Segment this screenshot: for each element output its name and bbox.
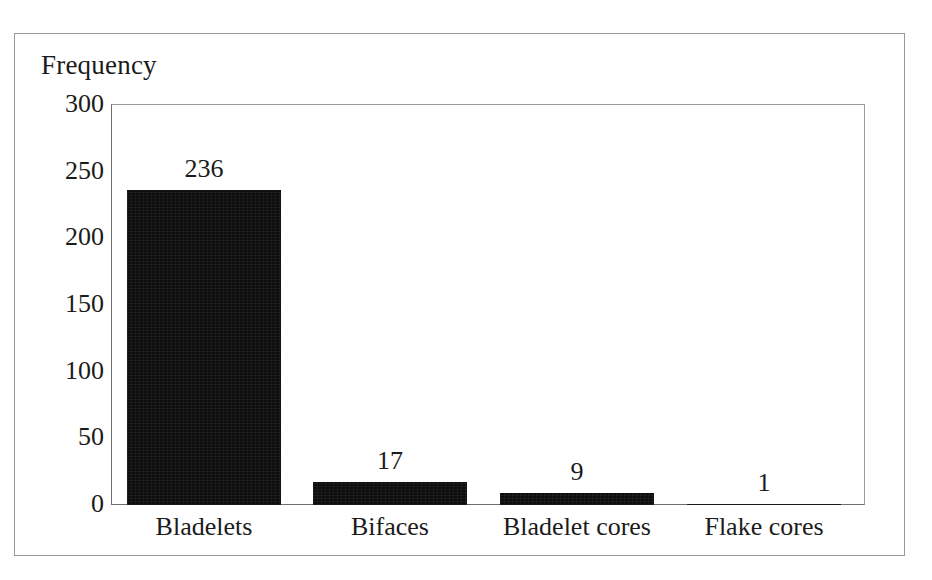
bar-bladelet-cores [500,493,654,505]
bar-value-bladelets: 236 [127,156,281,182]
x-tick-label-bifaces: Bifaces [303,512,477,542]
y-axis-tick-labels: 300 250 200 150 100 50 0 [30,0,104,580]
x-tick-label-bladelets: Bladelets [117,512,291,542]
x-tick-label-bladelet-cores: Bladelet cores [490,512,664,542]
bars-layer: 236 17 9 1 [111,104,865,505]
y-tick-label-50: 50 [34,424,104,450]
y-tick-label-0: 0 [34,491,104,517]
bar-bladelets [127,190,281,506]
x-tick-label-flake-cores: Flake cores [677,512,851,542]
x-axis-tick-labels: Bladelets Bifaces Bladelet cores Flake c… [111,512,865,556]
y-tick-label-200: 200 [34,224,104,250]
y-tick-label-100: 100 [34,358,104,384]
figure: Frequency 300 250 200 150 100 50 0 236 1… [0,0,932,580]
bar-flake-cores [687,504,841,505]
bar-value-bladelet-cores: 9 [500,459,654,485]
y-tick-label-250: 250 [34,158,104,184]
bar-value-flake-cores: 1 [687,470,841,496]
y-tick-label-300: 300 [34,91,104,117]
bar-value-bifaces: 17 [313,448,467,474]
bar-bifaces [313,482,467,505]
y-tick-label-150: 150 [34,291,104,317]
